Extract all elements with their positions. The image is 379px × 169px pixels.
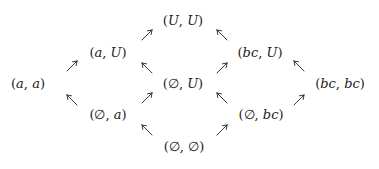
- arrow-northeast-icon: [292, 93, 306, 107]
- node-second: ∅: [188, 139, 199, 154]
- arrow-northwest-icon: [215, 91, 229, 105]
- node-a-a: (a, a): [11, 77, 45, 90]
- node-first: a: [16, 76, 24, 91]
- node-second: U: [187, 13, 198, 28]
- node-a-U: (a, U): [89, 46, 126, 59]
- node-first: ∅: [168, 76, 179, 91]
- arrow-northwest-icon: [215, 28, 229, 42]
- arrow-northeast-icon: [215, 123, 229, 137]
- node-first: ∅: [169, 139, 180, 154]
- node-bc-bc: (bc, bc): [315, 77, 365, 90]
- node-second: bc: [344, 76, 360, 91]
- node-first: bc: [320, 76, 336, 91]
- node-first: a: [95, 45, 103, 60]
- arrow-northeast-icon: [215, 61, 229, 75]
- node-close: ): [360, 76, 365, 91]
- node-second: bc: [263, 107, 279, 122]
- node-close: ): [198, 76, 203, 91]
- node-second: U: [187, 76, 198, 91]
- arrow-northeast-icon: [140, 28, 154, 42]
- node-close: ): [40, 76, 45, 91]
- node-empty-empty: (∅, ∅): [164, 140, 204, 153]
- arrow-northeast-icon: [65, 59, 79, 73]
- node-bc-U: (bc, U): [238, 46, 283, 59]
- arrow-northwest-icon: [140, 61, 154, 75]
- node-sep: ,: [258, 45, 266, 60]
- node-first: ∅: [244, 107, 255, 122]
- node-close: ): [278, 107, 283, 122]
- node-sep: ,: [24, 76, 32, 91]
- node-close: ): [122, 45, 127, 60]
- node-first: ∅: [94, 107, 105, 122]
- node-empty-U: (∅, U): [163, 77, 203, 90]
- arrow-northeast-icon: [140, 91, 154, 105]
- node-U-U: (U, U): [163, 14, 203, 27]
- node-second: U: [266, 45, 277, 60]
- arrow-northwest-icon: [65, 93, 79, 107]
- node-close: ): [199, 139, 204, 154]
- node-second: a: [32, 76, 40, 91]
- arrow-northwest-icon: [292, 59, 306, 73]
- node-first: U: [168, 13, 179, 28]
- arrow-northwest-icon: [140, 123, 154, 137]
- node-second: U: [111, 45, 122, 60]
- node-close: ): [198, 13, 203, 28]
- node-sep: ,: [336, 76, 344, 91]
- node-empty-bc: (∅, bc): [238, 108, 283, 121]
- lattice-diagram: (a, a)(a, U)(∅, a)(U, U)(∅, U)(∅, ∅)(bc,…: [0, 0, 379, 169]
- node-close: ): [277, 45, 282, 60]
- node-close: ): [122, 107, 127, 122]
- node-empty-a: (∅, a): [89, 108, 126, 121]
- node-first: bc: [243, 45, 259, 60]
- node-second: a: [114, 107, 122, 122]
- node-sep: ,: [102, 45, 110, 60]
